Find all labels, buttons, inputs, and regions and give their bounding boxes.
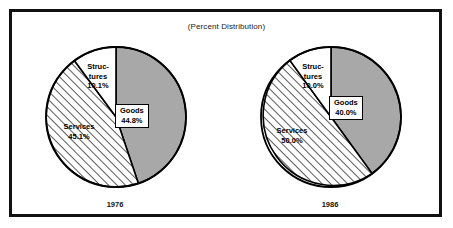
services-label-1976: Services	[48, 122, 110, 132]
structures-label-line1-1976: Struc-	[70, 62, 126, 72]
structures-label-line1-1986: Struc-	[285, 62, 341, 72]
slice-label-services-1976: Services 45.1%	[48, 122, 110, 141]
goods-value-1986: 40.0%	[334, 108, 358, 118]
goods-label-1986: Goods	[334, 98, 358, 108]
structures-value-1976: 10.1%	[70, 81, 126, 91]
goods-label-1976: Goods	[120, 106, 144, 116]
pie-panel-1986: Struc- tures 10.0% Services 50.0% Goods …	[235, 40, 425, 218]
figure-canvas: (Percent Distribution) Stru	[0, 0, 453, 228]
structures-label-line2-1976: tures	[70, 72, 126, 82]
pie-panel-1976: Struc- tures 10.1% Services 45.1% Goods …	[20, 40, 210, 218]
slice-label-goods-1976: Goods 44.8%	[115, 104, 149, 128]
services-value-1986: 50.0%	[261, 136, 323, 146]
slice-label-services-1986: Services 50.0%	[261, 126, 323, 145]
structures-value-1986: 10.0%	[285, 81, 341, 91]
slice-label-structures-1986: Struc- tures 10.0%	[285, 62, 341, 91]
structures-label-line2-1986: tures	[285, 72, 341, 82]
goods-value-1976: 44.8%	[120, 116, 144, 126]
chart-title: (Percent Distribution)	[0, 22, 453, 31]
slice-label-structures-1976: Struc- tures 10.1%	[70, 62, 126, 91]
year-label-1976: 1976	[20, 200, 210, 209]
services-value-1976: 45.1%	[48, 132, 110, 142]
services-label-1986: Services	[261, 126, 323, 136]
slice-label-goods-1986: Goods 40.0%	[329, 96, 363, 120]
year-label-1986: 1986	[235, 200, 425, 209]
